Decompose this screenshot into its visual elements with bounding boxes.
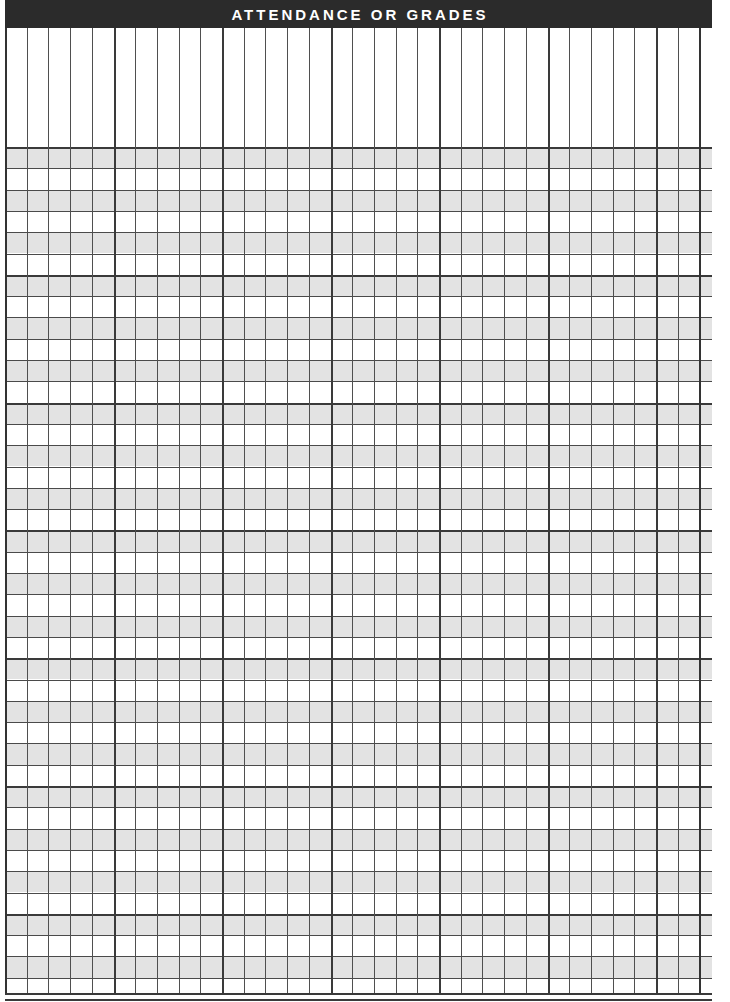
grid-row[interactable] bbox=[5, 147, 712, 168]
grid-column-group-rule bbox=[331, 147, 333, 995]
grid-row-rule bbox=[5, 317, 712, 318]
grid-row[interactable] bbox=[5, 829, 712, 850]
grid-row[interactable] bbox=[5, 956, 712, 977]
grid-column-group-rule bbox=[114, 28, 116, 147]
grid-row[interactable] bbox=[5, 914, 712, 935]
grid-row[interactable] bbox=[5, 509, 712, 530]
grid-row[interactable] bbox=[5, 339, 712, 360]
grid-row[interactable] bbox=[5, 701, 712, 722]
grid-column-rule bbox=[135, 28, 136, 147]
grid-row[interactable] bbox=[5, 765, 712, 786]
grid-row[interactable] bbox=[5, 680, 712, 701]
grid-column-rule bbox=[613, 147, 614, 995]
grid-column-rule bbox=[352, 28, 353, 147]
grid-column-rule bbox=[613, 28, 614, 147]
grid-row-rule bbox=[5, 232, 712, 233]
grid-row-rule bbox=[5, 254, 712, 255]
grid-row-group-rule bbox=[5, 403, 712, 405]
grid-column-rule bbox=[27, 28, 28, 147]
grid-column-group-rule bbox=[439, 147, 441, 995]
grid-row[interactable] bbox=[5, 424, 712, 445]
grid-column-rule bbox=[504, 147, 505, 995]
grid-row-rule bbox=[5, 956, 712, 957]
grid-column-rule bbox=[374, 28, 375, 147]
grid-row[interactable] bbox=[5, 935, 712, 956]
attendance-grid bbox=[5, 28, 712, 995]
sheet-title: ATTENDANCE OR GRADES bbox=[228, 7, 488, 22]
grid-row[interactable] bbox=[5, 807, 712, 828]
grid-column-rule bbox=[417, 147, 418, 995]
grid-row-rule bbox=[5, 360, 712, 361]
grid-column-rule bbox=[70, 147, 71, 995]
grid-column-rule bbox=[92, 28, 93, 147]
grid-row[interactable] bbox=[5, 722, 712, 743]
grid-column-rule bbox=[48, 147, 49, 995]
grid-row-group-rule bbox=[5, 786, 712, 788]
grid-column-rule bbox=[309, 28, 310, 147]
grid-column-rule bbox=[678, 147, 679, 995]
grid-row[interactable] bbox=[5, 296, 712, 317]
grid-row-rule bbox=[5, 871, 712, 872]
grid-row[interactable] bbox=[5, 743, 712, 764]
grid-column-group-rule bbox=[439, 28, 441, 147]
grid-row[interactable] bbox=[5, 893, 712, 914]
grid-row[interactable] bbox=[5, 360, 712, 381]
grid-edge-rule bbox=[699, 28, 701, 147]
grid-row[interactable] bbox=[5, 552, 712, 573]
grid-row[interactable] bbox=[5, 616, 712, 637]
grid-row-rule bbox=[5, 978, 712, 979]
grid-row-rule bbox=[5, 701, 712, 702]
grid-row[interactable] bbox=[5, 381, 712, 402]
grid-column-rule bbox=[482, 147, 483, 995]
grid-row[interactable] bbox=[5, 168, 712, 189]
grid-row[interactable] bbox=[5, 403, 712, 424]
grid-column-rule bbox=[309, 147, 310, 995]
attendance-or-grades-sheet: ATTENDANCE OR GRADES bbox=[0, 0, 730, 1002]
grid-column-group-rule bbox=[222, 147, 224, 995]
grid-row[interactable] bbox=[5, 317, 712, 338]
grid-row[interactable] bbox=[5, 275, 712, 296]
grid-column-rule bbox=[504, 28, 505, 147]
grid-row[interactable] bbox=[5, 232, 712, 253]
grid-row[interactable] bbox=[5, 594, 712, 615]
grid-row[interactable] bbox=[5, 190, 712, 211]
grid-row[interactable] bbox=[5, 637, 712, 658]
grid-header-column-region bbox=[5, 28, 712, 147]
grid-row[interactable] bbox=[5, 850, 712, 871]
grid-row-rule bbox=[5, 445, 712, 446]
grid-row-rule bbox=[5, 211, 712, 212]
grid-column-rule bbox=[461, 28, 462, 147]
grid-column-group-rule bbox=[656, 147, 658, 995]
grid-edge-rule bbox=[699, 147, 701, 995]
grid-row[interactable] bbox=[5, 530, 712, 551]
grid-body-region bbox=[5, 147, 712, 995]
grid-column-rule bbox=[417, 28, 418, 147]
grid-column-rule bbox=[179, 28, 180, 147]
grid-column-rule bbox=[634, 147, 635, 995]
grid-row[interactable] bbox=[5, 445, 712, 466]
grid-row[interactable] bbox=[5, 211, 712, 232]
grid-column-rule bbox=[200, 28, 201, 147]
grid-row-rule bbox=[5, 424, 712, 425]
grid-row[interactable] bbox=[5, 573, 712, 594]
grid-column-rule bbox=[374, 147, 375, 995]
grid-row-group-rule bbox=[5, 275, 712, 277]
grid-column-rule bbox=[678, 28, 679, 147]
grid-row[interactable] bbox=[5, 786, 712, 807]
grid-column-rule bbox=[569, 28, 570, 147]
grid-row[interactable] bbox=[5, 658, 712, 679]
grid-row[interactable] bbox=[5, 488, 712, 509]
grid-column-rule bbox=[591, 147, 592, 995]
grid-edge-rule bbox=[5, 28, 7, 147]
grid-row-rule bbox=[5, 381, 712, 382]
grid-row[interactable] bbox=[5, 467, 712, 488]
grid-row-rule bbox=[5, 722, 712, 723]
grid-row[interactable] bbox=[5, 871, 712, 892]
grid-row-rule bbox=[5, 935, 712, 936]
grid-row-rule bbox=[5, 850, 712, 851]
grid-row-group-rule bbox=[5, 147, 712, 149]
grid-row[interactable] bbox=[5, 254, 712, 275]
grid-row[interactable] bbox=[5, 978, 712, 999]
grid-row-rule bbox=[5, 616, 712, 617]
grid-column-rule bbox=[135, 147, 136, 995]
